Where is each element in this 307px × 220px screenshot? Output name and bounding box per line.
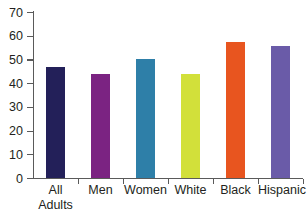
y-axis-line [33, 11, 34, 179]
y-tick-10: 10 [27, 154, 33, 155]
y-tick-0: 0 [27, 178, 33, 179]
y-tick-label: 60 [9, 30, 23, 43]
bar [181, 74, 200, 178]
bar-label: White [168, 183, 213, 198]
bar-label: Black [213, 183, 258, 198]
bar-label: Hispanic [258, 183, 303, 198]
bar-label: All Adults [33, 183, 78, 212]
y-tick-20: 20 [27, 131, 33, 132]
y-tick-label: 10 [9, 149, 23, 162]
bar [46, 67, 65, 178]
bar [136, 59, 155, 178]
bar [91, 74, 110, 178]
y-tick-70: 70 [27, 12, 33, 13]
y-tick-label: 30 [9, 101, 23, 114]
bar [271, 46, 290, 178]
bar-label: Men [78, 183, 123, 198]
y-tick-50: 50 [27, 59, 33, 60]
y-tick-60: 60 [27, 36, 33, 37]
y-tick-label: 0 [16, 172, 23, 185]
y-tick-30: 30 [27, 107, 33, 108]
y-tick-label: 40 [9, 77, 23, 90]
bar-label: Women [123, 183, 168, 198]
plot-area: 010203040506070 All AdultsMenWomenWhiteB… [0, 0, 307, 220]
y-tick-label: 20 [9, 125, 23, 138]
y-tick-40: 40 [27, 83, 33, 84]
bar-chart: 010203040506070 All AdultsMenWomenWhiteB… [0, 0, 307, 220]
bar [226, 42, 245, 178]
y-tick-label: 50 [9, 54, 23, 67]
y-tick-label: 70 [9, 6, 23, 19]
